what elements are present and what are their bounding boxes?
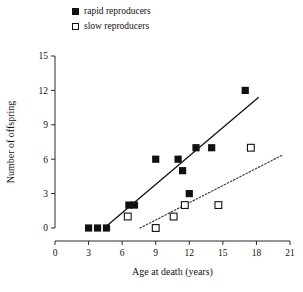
data-point-slow [215,202,222,209]
data-point-rapid [186,190,193,197]
data-point-slow [181,202,188,209]
data-point-slow [152,225,159,232]
data-point-rapid [85,224,92,231]
x-tick-label: 9 [153,248,158,258]
data-point-rapid [242,87,249,94]
data-point-rapid [131,201,138,208]
data-point-rapid [174,156,181,163]
y-tick-label: 12 [39,86,49,96]
y-tick-label: 0 [43,223,48,233]
x-tick-label: 12 [185,248,195,258]
y-tick-label: 15 [39,51,49,61]
y-tick-label: 6 [43,155,48,165]
y-axis-title: Number of offspring [5,101,16,184]
x-tick-label: 18 [252,248,262,258]
x-tick-label: 0 [53,248,58,258]
y-tick-label: 9 [43,120,48,130]
data-point-rapid [94,224,101,231]
x-tick-label: 6 [120,248,125,258]
data-point-slow [247,144,254,151]
regression-line-slow [140,155,283,228]
data-point-rapid [179,167,186,174]
x-tick-label: 21 [285,248,295,258]
x-tick-label: 15 [218,248,228,258]
data-point-rapid [208,144,215,151]
data-point-rapid [192,144,199,151]
data-point-slow [124,213,131,220]
scatter-plot: 03691215036912151821Age at death (years)… [0,0,303,292]
figure-panel: rapid reproducers slow reproducers 03691… [0,0,303,292]
x-axis-title: Age at death (years) [132,266,213,278]
x-tick-label: 3 [86,248,91,258]
data-point-rapid [152,156,159,163]
data-point-slow [170,213,177,220]
data-point-rapid [103,224,110,231]
y-tick-label: 3 [43,189,48,199]
